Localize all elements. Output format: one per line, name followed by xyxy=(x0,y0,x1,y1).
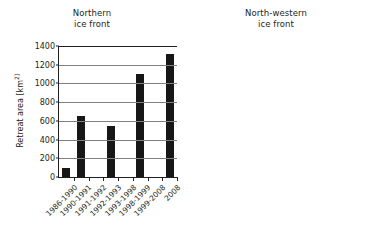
y-axis-tick-label: 1000 xyxy=(35,79,55,88)
y-axis-tick-mark xyxy=(56,139,59,140)
gridline xyxy=(59,140,177,141)
y-axis-tick-label: 600 xyxy=(40,116,55,125)
y-axis-tick-label: 0 xyxy=(50,173,55,182)
gridline xyxy=(59,121,177,122)
y-axis-tick-mark xyxy=(56,120,59,121)
y-axis-tick-label: 200 xyxy=(40,154,55,163)
x-axis-tick-mark xyxy=(118,177,119,181)
x-axis-tick-mark xyxy=(162,177,163,181)
y-axis-title-superscript: 2] xyxy=(13,74,20,80)
y-axis-tick-label: 1200 xyxy=(35,60,55,69)
y-axis-tick-mark xyxy=(56,83,59,84)
chart-title-northwestern: North-western ice front xyxy=(190,8,362,30)
plot-area-northern: 1986-19901990-19911991-19921992-19931993… xyxy=(58,46,177,178)
y-axis-tick-mark xyxy=(56,102,59,103)
figure-retreat-area: Northern ice front Retreat area [km2] 19… xyxy=(0,0,379,238)
y-axis-tick-label: 800 xyxy=(40,98,55,107)
x-axis-tick-mark xyxy=(177,177,178,181)
x-axis-tick-mark xyxy=(133,177,134,181)
y-axis-title: Retreat area [km2] xyxy=(13,51,25,171)
chart-panel-northern: Northern ice front Retreat area [km2] 19… xyxy=(0,0,190,238)
y-axis-title-text: Retreat area [km xyxy=(16,80,25,148)
y-axis-tick-mark xyxy=(56,158,59,159)
gridline xyxy=(59,65,177,66)
x-axis-tick-mark xyxy=(103,177,104,181)
x-axis-tick-mark xyxy=(74,177,75,181)
y-axis-tick-label: 1400 xyxy=(35,42,55,51)
chart-title-line-2: ice front xyxy=(190,19,362,30)
y-axis-tick-mark xyxy=(56,46,59,47)
gridline xyxy=(59,46,177,47)
chart-panel-northwestern: North-western ice front 1990-19931993-19… xyxy=(190,0,379,238)
y-axis-tick-mark xyxy=(56,177,59,178)
y-axis-tick-mark xyxy=(56,64,59,65)
gridline xyxy=(59,83,177,84)
y-axis-tick-label: 400 xyxy=(40,135,55,144)
chart-title-line-1: Northern xyxy=(12,8,172,19)
bar xyxy=(77,116,85,177)
chart-title-line-1: North-western xyxy=(190,8,362,19)
gridline xyxy=(59,158,177,159)
chart-title-northern: Northern ice front xyxy=(12,8,172,30)
x-axis-tick-mark xyxy=(148,177,149,181)
bar xyxy=(62,168,70,177)
x-axis-tick-mark xyxy=(89,177,90,181)
gridline xyxy=(59,102,177,103)
x-axis-labels-northern: 1986-19901990-19911991-19921992-19931993… xyxy=(59,177,177,237)
chart-title-line-2: ice front xyxy=(12,19,172,30)
